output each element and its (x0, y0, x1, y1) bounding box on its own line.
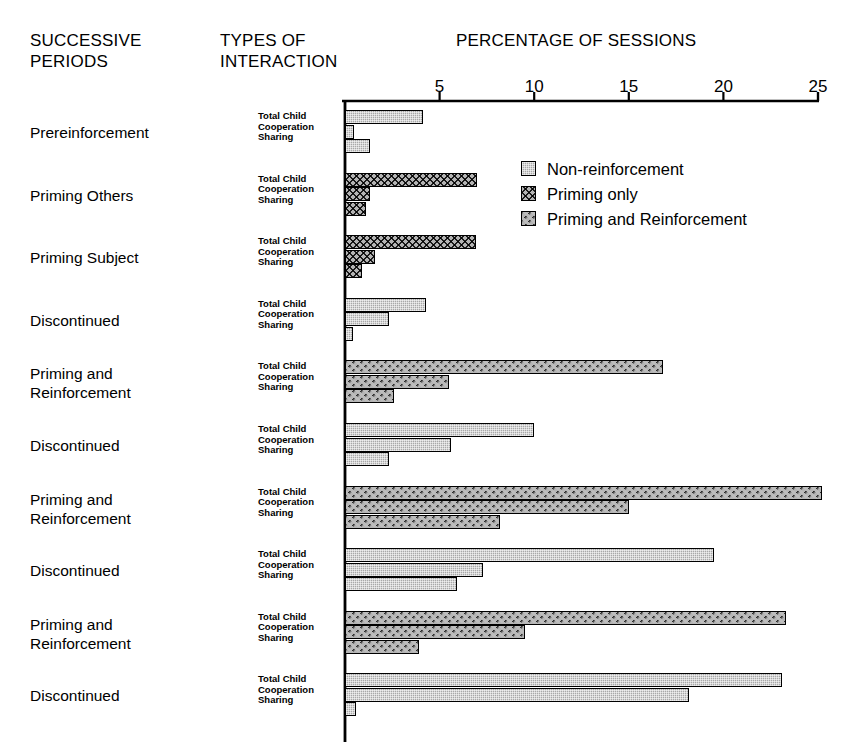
bar (345, 577, 457, 591)
period-label: Priming Others (30, 186, 133, 205)
bar (345, 187, 370, 201)
period-label: Priming Subject (30, 248, 139, 267)
legend-swatch-icon (521, 211, 536, 226)
bar (345, 173, 477, 187)
x-axis-tick-label-25: 25 (809, 78, 828, 95)
interaction-type-labels: Total ChildCooperationSharing (258, 174, 314, 206)
bar (345, 327, 353, 341)
period-label: Discontinued (30, 311, 120, 330)
interaction-type-label: Sharing (258, 132, 314, 143)
interaction-type-label: Sharing (258, 382, 314, 393)
bar (345, 389, 394, 403)
interaction-type-labels: Total ChildCooperationSharing (258, 361, 314, 393)
period-label: Prereinforcement (30, 123, 149, 142)
bar (345, 139, 370, 153)
legend-item: Priming only (521, 181, 747, 206)
period-label: Priming and Reinforcement (30, 364, 131, 402)
bar (345, 515, 500, 529)
interaction-type-label: Sharing (258, 695, 314, 706)
interaction-type-label: Sharing (258, 320, 314, 331)
legend-label: Priming only (547, 185, 638, 203)
bar (345, 423, 534, 437)
bar (345, 235, 476, 249)
interaction-type-label: Sharing (258, 195, 314, 206)
x-axis-tick-label-5: 5 (435, 78, 444, 95)
bar (345, 312, 389, 326)
interaction-type-label: Sharing (258, 257, 314, 268)
bar (345, 250, 375, 264)
bar (345, 438, 451, 452)
bar (345, 548, 714, 562)
period-label: Discontinued (30, 436, 120, 455)
bar (345, 688, 689, 702)
interaction-type-label: Sharing (258, 508, 314, 519)
bar (345, 110, 423, 124)
period-label: Discontinued (30, 686, 120, 705)
period-label: Discontinued (30, 561, 120, 580)
legend: Non-reinforcementPriming onlyPriming and… (521, 156, 747, 231)
bar (345, 702, 356, 716)
bar (345, 375, 449, 389)
bar (345, 500, 629, 514)
interaction-type-labels: Total ChildCooperationSharing (258, 674, 314, 706)
bar (345, 625, 525, 639)
interaction-type-label: Sharing (258, 445, 314, 456)
interaction-type-label: Sharing (258, 570, 314, 581)
bar (345, 673, 782, 687)
x-axis-tick-label-20: 20 (714, 78, 733, 95)
bar (345, 452, 389, 466)
bar (345, 360, 663, 374)
legend-swatch-icon (521, 161, 536, 176)
interaction-type-label: Sharing (258, 633, 314, 644)
bar (345, 298, 426, 312)
bar (345, 640, 419, 654)
legend-item: Non-reinforcement (521, 156, 747, 181)
interaction-type-labels: Total ChildCooperationSharing (258, 111, 314, 143)
interaction-type-labels: Total ChildCooperationSharing (258, 236, 314, 268)
x-axis-tick-label-15: 15 (619, 78, 638, 95)
interaction-type-label: Total Child (258, 111, 314, 122)
legend-label: Priming and Reinforcement (547, 210, 747, 228)
bar (345, 611, 786, 625)
bar (345, 264, 362, 278)
bar (345, 563, 483, 577)
interaction-type-labels: Total ChildCooperationSharing (258, 424, 314, 456)
interaction-type-labels: Total ChildCooperationSharing (258, 549, 314, 581)
period-label: Priming and Reinforcement (30, 490, 131, 528)
legend-label: Non-reinforcement (547, 160, 684, 178)
bar (345, 125, 354, 139)
interaction-type-labels: Total ChildCooperationSharing (258, 487, 314, 519)
bar (345, 202, 366, 216)
x-axis-tick-label-10: 10 (525, 78, 544, 95)
bar (345, 486, 822, 500)
interaction-type-labels: Total ChildCooperationSharing (258, 299, 314, 331)
interaction-type-labels: Total ChildCooperationSharing (258, 612, 314, 644)
interaction-type-label: Total Child (258, 424, 314, 435)
period-label: Priming and Reinforcement (30, 615, 131, 653)
bar-chart: SUCCESSIVE PERIODS TYPES OF INTERACTION … (0, 0, 841, 752)
legend-item: Priming and Reinforcement (521, 206, 747, 231)
legend-swatch-icon (521, 186, 536, 201)
